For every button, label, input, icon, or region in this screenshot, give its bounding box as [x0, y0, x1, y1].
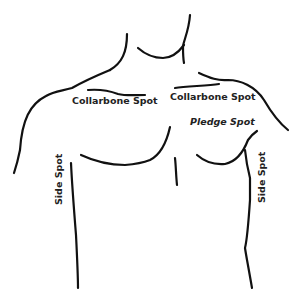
collarbone-spot-label-right: Collarbone Spot — [170, 92, 256, 102]
side-spot-label-left: Side Spot — [54, 154, 64, 205]
left-side-line — [71, 163, 78, 288]
pledge-spot-label: Pledge Spot — [190, 117, 255, 127]
neck-base-curve — [138, 45, 184, 58]
right-collarbone-line — [175, 84, 219, 88]
right-side-line — [245, 150, 252, 288]
torso-outline — [0, 0, 301, 297]
sternum-line — [175, 158, 177, 185]
side-spot-label-right: Side Spot — [257, 152, 267, 203]
left-shoulder-line — [20, 70, 110, 150]
torso-diagram: Collarbone Spot Collarbone Spot Pledge S… — [0, 0, 301, 297]
collarbone-spot-label-left: Collarbone Spot — [72, 96, 158, 106]
right-chest-curve — [197, 131, 257, 164]
left-chest-curve — [81, 127, 170, 165]
neck-left-line — [110, 34, 127, 70]
left-arm-line — [14, 150, 20, 173]
neck-right-line — [183, 15, 190, 63]
